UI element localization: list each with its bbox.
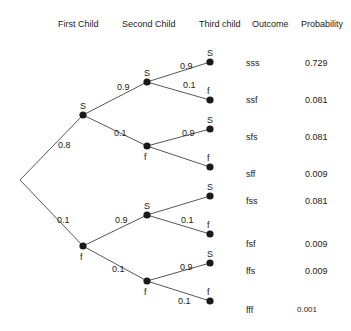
edge-probability: 0.9 bbox=[180, 262, 193, 272]
tree-node bbox=[206, 230, 213, 237]
node-label: S bbox=[144, 201, 150, 211]
node-label: f bbox=[207, 153, 210, 163]
outcome-probability: 0.081 bbox=[305, 132, 328, 142]
tree-edge bbox=[20, 180, 83, 246]
node-label: f bbox=[144, 152, 147, 162]
outcome-probability: 0.081 bbox=[305, 95, 328, 105]
tree-edge bbox=[147, 146, 210, 167]
node-label: S bbox=[207, 182, 213, 192]
tree-node bbox=[206, 192, 213, 199]
node-label: S bbox=[207, 249, 213, 259]
edge-probability: 0.8 bbox=[58, 140, 71, 150]
outcome-label: fsf bbox=[246, 239, 256, 249]
outcome-label: sff bbox=[246, 169, 255, 179]
tree-edge bbox=[147, 215, 210, 234]
node-label: S bbox=[207, 48, 213, 58]
node-label: f bbox=[207, 86, 210, 96]
outcome-probability: 0.729 bbox=[305, 58, 328, 68]
outcome-label: fss bbox=[246, 196, 258, 206]
tree-node bbox=[206, 96, 213, 103]
tree-edge bbox=[83, 82, 147, 115]
tree-node bbox=[79, 242, 86, 249]
node-label: f bbox=[144, 287, 147, 297]
tree-node bbox=[206, 259, 213, 266]
outcome-label: sfs bbox=[246, 132, 258, 142]
outcome-probability: 0.009 bbox=[305, 266, 328, 276]
node-label: S bbox=[80, 101, 86, 111]
edge-probability: 0.1 bbox=[114, 128, 127, 138]
edge-probability: 0.9 bbox=[182, 128, 195, 138]
tree-node bbox=[143, 211, 150, 218]
tree-edge bbox=[147, 196, 210, 215]
edge-probability: 0.1 bbox=[57, 215, 70, 225]
probability-tree: 0.80.10.90.10.90.10.90.10.90.10.90.1 SfS… bbox=[0, 0, 351, 331]
edge-probability: 0.1 bbox=[112, 264, 125, 274]
tree-node bbox=[206, 125, 213, 132]
tree-edge bbox=[147, 62, 210, 82]
tree-node bbox=[206, 58, 213, 65]
tree-node bbox=[79, 111, 86, 118]
node-label: S bbox=[144, 68, 150, 78]
tree-edge bbox=[20, 115, 83, 180]
outcome-probability: 0.001 bbox=[297, 305, 317, 314]
tree-node bbox=[206, 163, 213, 170]
edge-probability: 0.1 bbox=[181, 215, 194, 225]
outcome-probability: 0.009 bbox=[305, 239, 328, 249]
outcome-label: ssf bbox=[246, 95, 258, 105]
tree-node bbox=[143, 142, 150, 149]
edge-probability: 0.1 bbox=[183, 80, 196, 90]
node-label: f bbox=[80, 252, 83, 262]
tree-node bbox=[143, 78, 150, 85]
node-label: f bbox=[207, 220, 210, 230]
outcome-label: ffs bbox=[246, 266, 255, 276]
tree-edge bbox=[147, 129, 210, 146]
node-label: S bbox=[207, 115, 213, 125]
outcome-probability: 0.009 bbox=[305, 169, 328, 179]
node-label: f bbox=[207, 287, 210, 297]
outcome-label: sss bbox=[246, 58, 260, 68]
tree-edge bbox=[147, 263, 210, 281]
outcome-label: fff bbox=[246, 305, 253, 315]
edge-probability: 0.9 bbox=[117, 82, 130, 92]
edge-probability: 0.9 bbox=[180, 61, 193, 71]
tree-node bbox=[206, 297, 213, 304]
tree-edge bbox=[147, 82, 210, 100]
outcome-probability: 0.081 bbox=[305, 196, 328, 206]
edge-probability: 0.1 bbox=[178, 296, 191, 306]
tree-node bbox=[143, 277, 150, 284]
edge-probability: 0.9 bbox=[115, 215, 128, 225]
